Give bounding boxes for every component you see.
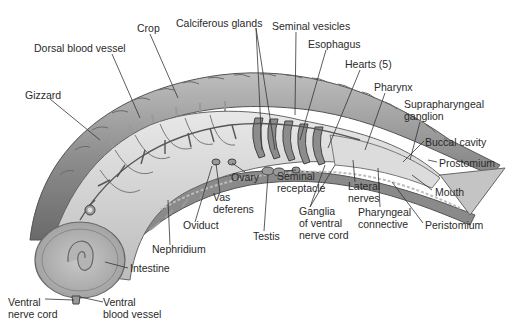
label-vas-deferens: Vas deferens <box>213 191 254 215</box>
label-hearts: Hearts (5) <box>345 58 392 70</box>
label-lateral-nerves: Lateral nerves <box>348 180 380 204</box>
label-prostomium: Prostomium <box>439 157 495 169</box>
label-suprapharyngeal-ganglion: Suprapharyngeal ganglion <box>404 98 484 122</box>
label-ventral-nerve-cord: Ventral nerve cord <box>8 296 58 320</box>
label-oviduct: Oviduct <box>183 219 219 231</box>
label-nephridium: Nephridium <box>152 243 206 255</box>
earthworm-anatomy-diagram: Crop Calciferous glands Seminal vesicles… <box>0 0 507 334</box>
label-calciferous-glands: Calciferous glands <box>176 17 262 29</box>
label-esophagus: Esophagus <box>308 38 361 50</box>
label-ventral-blood-vessel: Ventral blood vessel <box>103 296 161 320</box>
label-ganglia-ventral-nerve-cord: Ganglia of ventral nerve cord <box>299 205 349 241</box>
label-pharynx: Pharynx <box>374 81 413 93</box>
label-seminal-receptacle: Seminal receptacle <box>277 170 325 194</box>
label-mouth: Mouth <box>435 186 464 198</box>
label-intestine: Intestine <box>130 262 170 274</box>
label-testis: Testis <box>253 230 280 242</box>
label-ovary: Ovary <box>231 171 259 183</box>
label-peristomium: Peristomium <box>425 219 483 231</box>
label-pharyngeal-connective: Pharyngeal connective <box>358 206 411 230</box>
label-buccal-cavity: Buccal cavity <box>425 136 486 148</box>
label-gizzard: Gizzard <box>25 89 61 101</box>
label-dorsal-blood-vessel: Dorsal blood vessel <box>34 42 126 54</box>
label-crop: Crop <box>137 22 160 34</box>
label-seminal-vesicles: Seminal vesicles <box>272 20 350 32</box>
